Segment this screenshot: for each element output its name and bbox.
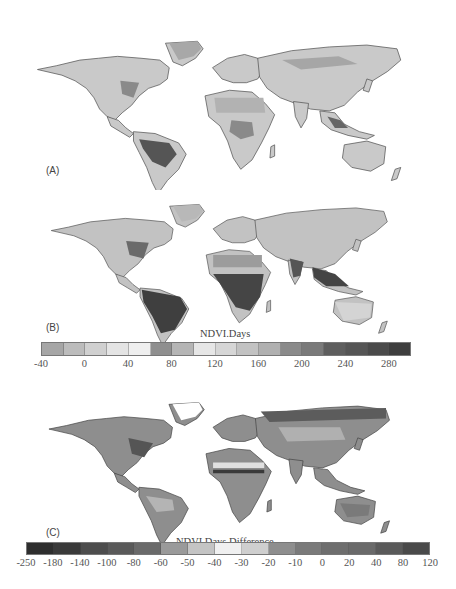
colorbar-ndvi	[41, 342, 411, 356]
colorbar-segment	[237, 343, 259, 355]
colorbar-segment	[215, 543, 242, 554]
colorbar-segment	[27, 543, 54, 554]
colorbar-tick-label: -40	[34, 358, 48, 369]
colorbar-tick-label: 0	[82, 358, 87, 369]
world-map-b	[16, 194, 426, 342]
panel-label-c: (C)	[46, 527, 60, 538]
colorbar-tick-label: -40	[208, 557, 222, 568]
panel-label-a: (A)	[46, 165, 59, 176]
colorbar-tick-label: -30	[234, 557, 248, 568]
colorbar-segment	[376, 543, 403, 554]
colorbar-tick-label: -50	[181, 557, 195, 568]
colorbar-segment	[81, 543, 108, 554]
colorbar-tick-label: 40	[123, 358, 134, 369]
colorbar-segment	[349, 543, 376, 554]
colorbar-segment	[85, 343, 107, 355]
colorbar-segment	[108, 543, 135, 554]
colorbar-tick-label: 160	[251, 358, 267, 369]
colorbar-segment	[216, 343, 238, 355]
colorbar-tick-label: 200	[294, 358, 310, 369]
colorbar-segment	[296, 543, 323, 554]
map-panel-c	[16, 392, 426, 542]
colorbar-tick-label: 120	[207, 358, 223, 369]
colorbar-tick-label: -20	[261, 557, 275, 568]
colorbar-segment	[281, 343, 303, 355]
colorbar-segment	[322, 543, 349, 554]
colorbar-tick-label: -60	[154, 557, 168, 568]
colorbar-tick-label: 280	[381, 358, 397, 369]
colorbar-diff-ticks: -250-180-140-100-80-60-50-40-30-20-10020…	[26, 557, 430, 571]
colorbar-ndvi-ticks: -4004080120160200240280	[41, 358, 411, 372]
colorbar-segment	[64, 343, 86, 355]
colorbar-tick-label: 20	[344, 557, 355, 568]
colorbar-tick-label: -140	[70, 557, 89, 568]
colorbar-segment	[188, 543, 215, 554]
colorbar-segment	[302, 343, 324, 355]
colorbar-segment	[172, 343, 194, 355]
colorbar-segment	[54, 543, 81, 554]
map-panel-b	[16, 194, 426, 342]
colorbar-segment	[346, 343, 368, 355]
colorbar-tick-label: -10	[288, 557, 302, 568]
colorbar-segment	[151, 343, 173, 355]
colorbar-tick-label: 80	[398, 557, 409, 568]
colorbar-segment	[161, 543, 188, 554]
colorbar-segment	[42, 343, 64, 355]
colorbar-diff	[26, 542, 430, 555]
colorbar-segment	[389, 343, 410, 355]
colorbar-tick-label: 240	[337, 358, 353, 369]
colorbar-segment	[129, 343, 151, 355]
colorbar-tick-label: 0	[320, 557, 325, 568]
world-map-a	[16, 30, 426, 190]
colorbar-tick-label: 120	[422, 557, 438, 568]
colorbar-segment	[242, 543, 269, 554]
colorbar-tick-label: 80	[166, 358, 177, 369]
world-map-c	[16, 392, 426, 542]
colorbar-tick-label: -100	[97, 557, 116, 568]
colorbar-segment	[324, 343, 346, 355]
colorbar-segment	[194, 343, 216, 355]
colorbar-segment	[368, 343, 390, 355]
colorbar-segment	[259, 343, 281, 355]
colorbar-tick-label: -180	[43, 557, 62, 568]
colorbar-ndvi-title: NDVI.Days	[200, 328, 250, 339]
map-panel-a	[16, 30, 426, 190]
panel-label-b: (B)	[46, 322, 59, 333]
colorbar-segment	[107, 343, 129, 355]
colorbar-segment	[403, 543, 429, 554]
colorbar-tick-label: -80	[127, 557, 141, 568]
colorbar-tick-label: -250	[16, 557, 35, 568]
colorbar-segment	[134, 543, 161, 554]
colorbar-tick-label: 40	[371, 557, 382, 568]
colorbar-segment	[269, 543, 296, 554]
